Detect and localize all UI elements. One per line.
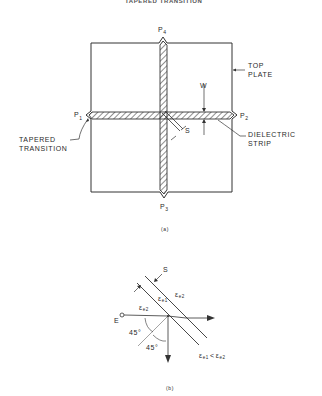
- angle-label-1: 45°: [129, 329, 141, 336]
- diagram-canvas: TAPERED TRANSITION P4 P3 P1 P2 TOP PLA: [0, 0, 322, 396]
- figure-b: S E 45° 45° εe1 εe2 εe2 εe1<εe2 (b): [114, 266, 226, 391]
- field-label: E: [114, 317, 119, 324]
- b-spacing-label: S: [163, 266, 168, 273]
- field-origin-icon: [120, 313, 124, 317]
- incident-ray: [124, 315, 168, 316]
- top-plate-label-2: PLATE: [248, 71, 273, 78]
- eps-e2-right-label: εe2: [175, 291, 185, 299]
- port-p3-label: P3: [160, 203, 169, 212]
- tapered-transition-label-2: TRANSITION: [19, 145, 67, 152]
- port-p4-label: P4: [158, 26, 167, 35]
- eps-e2-left-label: εe2: [139, 304, 149, 312]
- port-p1-label: P1: [74, 111, 83, 121]
- page-header: TAPERED TRANSITION: [125, 0, 202, 4]
- boundary-line-outer: [145, 276, 207, 338]
- port-p2-label: P2: [240, 112, 249, 121]
- dielectric-strip-label-1: DIELECTRIC: [248, 131, 296, 138]
- reference-line-45: [138, 316, 168, 346]
- tapered-transition-label-1: TAPERED: [19, 136, 56, 143]
- width-label: W: [200, 82, 207, 89]
- arrow-down-icon: [165, 355, 171, 363]
- dielectric-strip-label-2: STRIP: [248, 140, 272, 147]
- figure-b-caption: (b): [166, 385, 174, 391]
- top-plate-label-1: TOP: [248, 62, 264, 69]
- spacing-label: S: [185, 127, 190, 134]
- permittivity-relation: εe1<εe2: [199, 352, 226, 360]
- eps-e1-label: εe1: [158, 295, 168, 303]
- angle-label-2: 45°: [146, 344, 158, 351]
- figure-a-caption: (a): [161, 226, 169, 232]
- figure-a: P4 P3 P1 P2 TOP PLATE DIELECTRIC STRIP T…: [19, 26, 296, 232]
- arrow-right-icon: [207, 315, 215, 321]
